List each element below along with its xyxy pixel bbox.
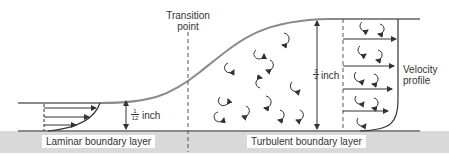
transition-point-label: Transition point xyxy=(164,10,212,32)
turbulent-thickness-fraction: 3 4 xyxy=(313,68,319,81)
diagram-canvas xyxy=(0,0,449,156)
laminar-boundary-layer-label: Laminar boundary layer xyxy=(42,135,155,148)
laminar-thickness-unit: inch xyxy=(142,110,160,121)
laminar-thickness-fraction: 1 12 xyxy=(131,108,139,121)
boundary-layer-diagram: Transition point 1 12 inch 3 4 inch Velo… xyxy=(0,0,449,156)
boundary-layer-edge xyxy=(18,19,420,103)
eddy-arrows xyxy=(214,22,384,126)
turbulent-thickness-unit: inch xyxy=(321,70,339,81)
turbulent-boundary-layer-label: Turbulent boundary layer xyxy=(247,135,366,148)
velocity-profile-label: Velocity profile xyxy=(403,64,437,86)
